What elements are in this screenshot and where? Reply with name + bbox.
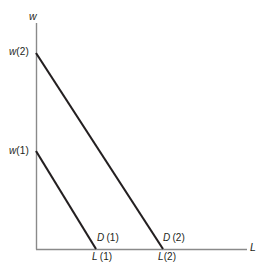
- demand-curve-d2: [36, 53, 163, 249]
- curve-label-d1-index: (1): [106, 232, 119, 243]
- curve-label-d2-index: (2): [172, 232, 185, 243]
- curve-label-d2-var: D: [163, 232, 170, 243]
- wage-intercept-w2-index: (2): [16, 46, 29, 57]
- demand-curve-d1: [36, 151, 96, 249]
- x-axis-label: L: [250, 242, 256, 253]
- wage-intercept-label-w1: w(1): [9, 146, 29, 156]
- figure-canvas: [0, 0, 267, 277]
- employment-intercept-label-l2: L(2): [158, 252, 176, 262]
- wage-intercept-w1-index: (1): [16, 145, 29, 156]
- labour-demand-figure: w L w(2) w(1) D (1) D (2) L (1) L(2): [0, 0, 267, 277]
- curve-label-d1-var: D: [97, 232, 104, 243]
- y-axis-label: w: [29, 11, 37, 22]
- wage-intercept-label-w2: w(2): [9, 47, 29, 57]
- employment-intercept-l1-index: (1): [100, 251, 113, 262]
- curve-label-d2: D (2): [163, 233, 185, 243]
- employment-intercept-l2-index: (2): [164, 251, 177, 262]
- curve-label-d1: D (1): [97, 233, 119, 243]
- employment-intercept-label-l1: L (1): [92, 252, 112, 262]
- employment-intercept-l1-var: L: [92, 251, 98, 262]
